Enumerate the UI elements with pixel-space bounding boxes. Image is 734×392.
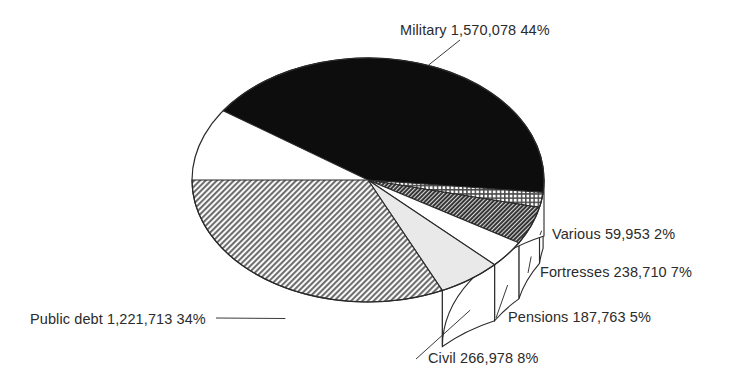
pie-chart-canvas: Military 1,570,078 44%Various 59,953 2%F… xyxy=(0,0,734,392)
slice-label-fortresses: Fortresses 238,710 7% xyxy=(540,264,692,280)
leader-line-military xyxy=(428,40,460,65)
leader-line-public-debt xyxy=(216,318,285,319)
slice-label-various: Various 59,953 2% xyxy=(552,226,675,242)
slice-label-pensions: Pensions 187,763 5% xyxy=(508,309,651,325)
pie-top-slices: Military 1,570,078 44%Various 59,953 2%F… xyxy=(192,58,544,302)
slice-label-public-debt: Public debt 1,221,713 34% xyxy=(30,311,206,327)
pie-chart-figure: Military 1,570,078 44%Various 59,953 2%F… xyxy=(0,0,734,392)
slice-label-military: Military 1,570,078 44% xyxy=(400,22,550,38)
slice-label-civil: Civil 266,978 8% xyxy=(428,350,538,366)
